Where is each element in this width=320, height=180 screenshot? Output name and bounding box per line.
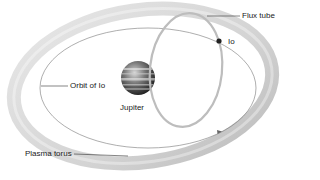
io-moon: [216, 38, 221, 43]
orbit-of-io-label: Orbit of Io: [70, 81, 105, 91]
plasma-torus-label: Plasma torus: [25, 149, 72, 159]
jupiter-label: Jupiter: [120, 103, 144, 113]
flux-tube-label: Flux tube: [242, 11, 275, 21]
flux-tube: [144, 10, 228, 131]
io-label: Io: [228, 37, 235, 47]
